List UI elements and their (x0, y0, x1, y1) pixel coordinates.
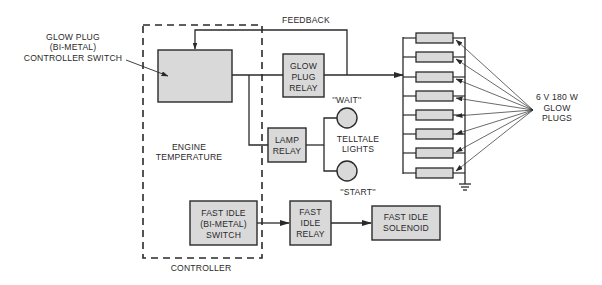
svg-text:GLOW: GLOW (543, 103, 571, 113)
glow-plug-2 (403, 52, 465, 62)
svg-text:PLUGS: PLUGS (542, 113, 572, 123)
svg-text:ENGINE: ENGINE (172, 142, 206, 152)
svg-text:LIGHTS: LIGHTS (342, 144, 374, 154)
glow-plug-controller-switch-block (158, 50, 232, 102)
svg-text:6 V 180 W: 6 V 180 W (536, 92, 579, 102)
start-light-icon (337, 161, 357, 181)
glow-plugs (403, 33, 465, 178)
svg-text:GLOW PLUG: GLOW PLUG (46, 32, 100, 42)
svg-text:(BI-METAL): (BI-METAL) (50, 42, 97, 52)
glow-plug-8 (403, 168, 465, 178)
svg-text:RELAY: RELAY (296, 229, 325, 239)
svg-text:IDLE: IDLE (301, 218, 321, 228)
svg-text:RELAY: RELAY (289, 83, 318, 93)
svg-text:FAST: FAST (299, 207, 322, 217)
fast-idle-solenoid-label: FAST IDLE SOLENOID (383, 212, 429, 233)
glow-plug-leaders (456, 40, 533, 171)
wait-label: ''WAIT'' (332, 95, 361, 105)
svg-text:TELLTALE: TELLTALE (337, 134, 379, 144)
svg-text:SWITCH: SWITCH (206, 230, 241, 240)
glow-plug-4 (403, 91, 465, 101)
wait-light-wire (324, 118, 337, 145)
svg-text:CONTROLLER SWITCH: CONTROLLER SWITCH (24, 53, 122, 63)
glow-plug-system-diagram: FEEDBACK GLOW PLUG (BI-METAL) CONTROLLER… (0, 0, 602, 285)
svg-text:LAMP: LAMP (275, 135, 299, 145)
svg-text:FAST IDLE: FAST IDLE (201, 208, 246, 218)
start-light-wire (324, 145, 337, 171)
glow-plug-5 (403, 110, 465, 120)
switch-to-lamp-relay-line (249, 75, 268, 145)
lamp-relay-block (268, 128, 306, 162)
svg-text:PLUG: PLUG (291, 72, 315, 82)
lamp-relay-label: LAMP RELAY (273, 135, 302, 156)
engine-temperature-label: ENGINE TEMPERATURE (156, 142, 223, 162)
svg-text:SOLENOID: SOLENOID (383, 223, 429, 233)
fast-idle-switch-label: FAST IDLE (BI-METAL) SWITCH (200, 208, 247, 240)
glow-plug-6 (403, 129, 465, 139)
svg-text:GLOW: GLOW (290, 61, 318, 71)
svg-text:TEMPERATURE: TEMPERATURE (156, 152, 223, 162)
glow-plug-relay-label: GLOW PLUG RELAY (289, 61, 318, 93)
controller-switch-label: GLOW PLUG (BI-METAL) CONTROLLER SWITCH (24, 32, 122, 63)
controller-label: CONTROLLER (171, 263, 232, 273)
glow-plugs-label: 6 V 180 W GLOW PLUGS (536, 92, 579, 123)
telltale-lights-label: TELLTALE LIGHTS (337, 134, 379, 154)
glow-plug-1 (403, 33, 465, 43)
feedback-label: FEEDBACK (282, 15, 330, 25)
wait-light-icon (337, 108, 357, 128)
svg-text:RELAY: RELAY (273, 146, 302, 156)
glow-plug-7 (403, 148, 465, 158)
svg-text:FAST IDLE: FAST IDLE (384, 212, 429, 222)
glow-plug-3 (403, 72, 465, 82)
svg-text:(BI-METAL): (BI-METAL) (200, 219, 247, 229)
ground-icon (459, 184, 471, 190)
start-label: ''START'' (340, 187, 376, 197)
